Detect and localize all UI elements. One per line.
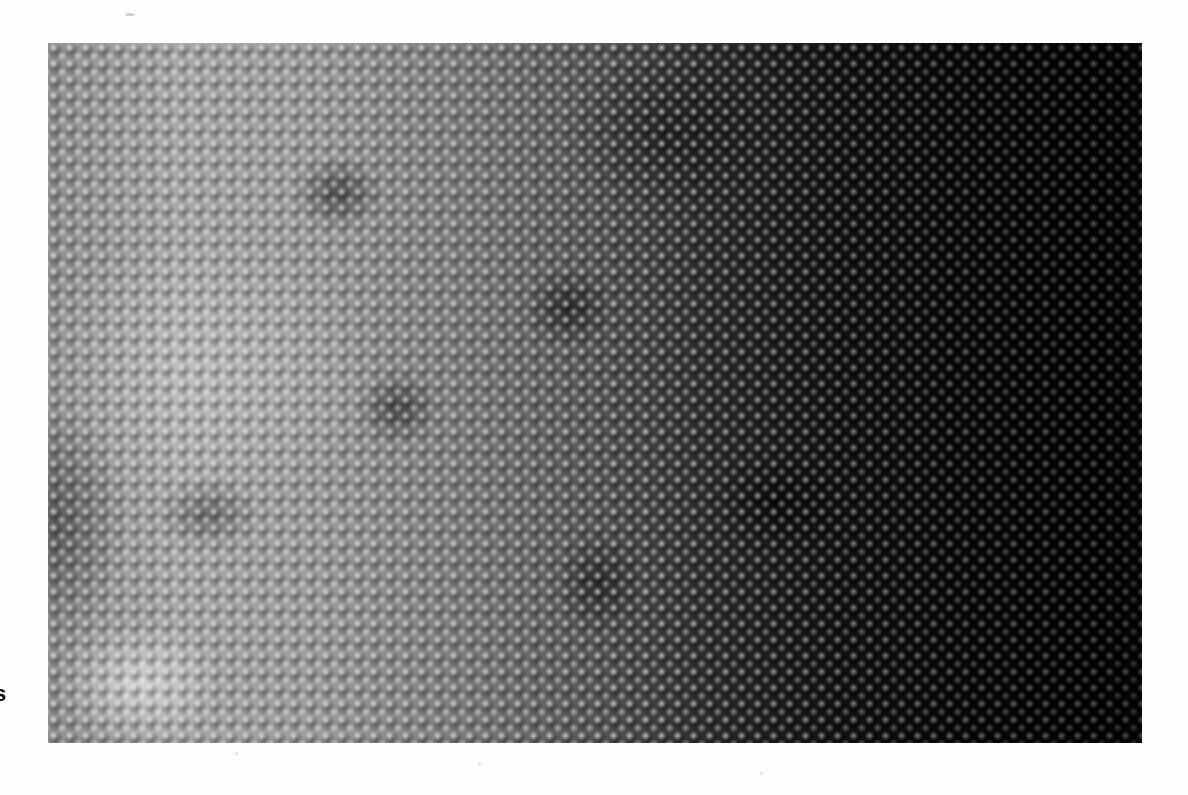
- scan-dust-speck: [760, 772, 763, 775]
- scan-dust-speck: [235, 752, 238, 755]
- scanned-page: s: [0, 0, 1188, 795]
- scan-dust-speck: [478, 762, 481, 765]
- photo-dark-gradient: [48, 43, 1142, 743]
- texture-photograph: [48, 43, 1142, 743]
- clipped-caption-text: s: [0, 683, 6, 705]
- scan-dust-speck: [125, 13, 135, 16]
